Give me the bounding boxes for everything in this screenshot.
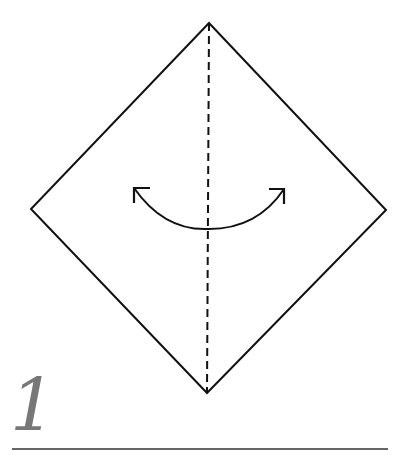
step-underline	[12, 448, 388, 450]
origami-diagram	[0, 0, 396, 462]
valley-fold-line	[207, 23, 209, 393]
step-number: 1	[10, 366, 56, 446]
